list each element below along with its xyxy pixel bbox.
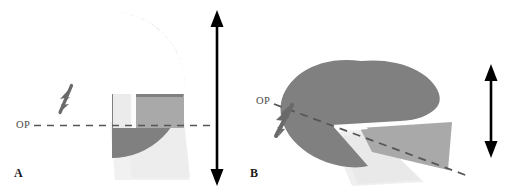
panel-b-op-label: OP [256,95,270,106]
panel-b-height-double-arrow-icon [485,64,498,158]
figure-canvas: OP OP A B [0,0,523,193]
panel-b-label: B [250,166,258,181]
panel-a-op-label: OP [16,119,30,130]
panel-a-label: A [14,166,23,181]
